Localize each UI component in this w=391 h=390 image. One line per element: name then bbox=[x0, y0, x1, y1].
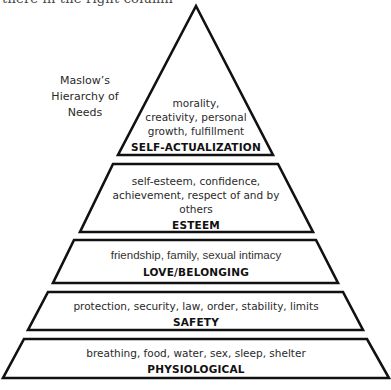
tier-description-line: friendship, family, sexual intimacy bbox=[76, 248, 316, 262]
diagram-title: Maslow’s Hierarchy of Needs bbox=[40, 73, 130, 121]
tier-description-line: achievement, respect of and by bbox=[106, 188, 286, 202]
tier-description-line: self-esteem, confidence, bbox=[106, 174, 286, 188]
tier-self-actualization: morality, creativity, personal growth, f… bbox=[126, 96, 266, 155]
tier-physiological: breathing, food, water, sex, sleep, shel… bbox=[46, 346, 346, 377]
tier-label: SELF-ACTUALIZATION bbox=[126, 140, 266, 155]
tier-esteem: self-esteem, confidence, achievement, re… bbox=[106, 174, 286, 233]
tier-description-line: others bbox=[106, 202, 286, 216]
tier-description-line: morality, bbox=[126, 96, 266, 110]
tier-label: PHYSIOLOGICAL bbox=[46, 362, 346, 377]
tier-love-belonging: friendship, family, sexual intimacy LOVE… bbox=[76, 248, 316, 280]
tier-label: LOVE/BELONGING bbox=[76, 265, 316, 280]
tier-description-line: protection, security, law, order, stabil… bbox=[46, 299, 346, 313]
tier-description-line: creativity, personal bbox=[126, 110, 266, 124]
tier-label: SAFETY bbox=[46, 315, 346, 330]
title-line: Hierarchy of bbox=[40, 89, 130, 105]
tier-label: ESTEEM bbox=[106, 218, 286, 233]
tier-description-line: breathing, food, water, sex, sleep, shel… bbox=[46, 346, 346, 360]
tier-safety: protection, security, law, order, stabil… bbox=[46, 299, 346, 330]
tier-description-line: growth, fulfillment bbox=[126, 124, 266, 138]
maslow-hierarchy-diagram: there in the right column Maslow’s Hiera… bbox=[0, 0, 391, 390]
title-line: Needs bbox=[40, 105, 130, 121]
title-line: Maslow’s bbox=[40, 73, 130, 89]
